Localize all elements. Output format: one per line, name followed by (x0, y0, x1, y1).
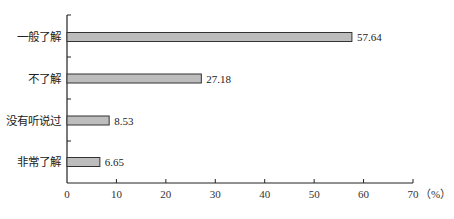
x-tick-label: 0 (64, 188, 70, 200)
value-label: 6.65 (105, 156, 125, 168)
bar-group: 非常了解6.65 (17, 155, 125, 169)
x-tick-label: 70 (408, 188, 420, 200)
bar-group: 没有听说过8.53 (6, 114, 134, 128)
x-tick-label: 50 (309, 188, 321, 200)
bars: 一般了解57.64不了解27.18没有听说过8.53非常了解6.65 (6, 30, 382, 169)
bar-group: 一般了解57.64 (17, 30, 382, 44)
category-label: 非常了解 (17, 155, 62, 169)
value-label: 57.64 (357, 31, 382, 43)
bar (67, 116, 109, 125)
bar (67, 74, 201, 83)
x-axis-unit-label: （%） (420, 188, 451, 200)
axes: 010203040506070（%） (64, 15, 451, 200)
x-tick-label: 10 (111, 188, 123, 200)
horizontal-bar-chart: 010203040506070（%） 一般了解57.64不了解27.18没有听说… (0, 0, 454, 219)
x-tick-label: 30 (210, 188, 222, 200)
x-tick-label: 60 (358, 188, 370, 200)
category-label: 不了解 (28, 72, 62, 86)
bar-group: 不了解27.18 (28, 72, 232, 86)
x-tick-label: 20 (160, 188, 172, 200)
x-tick-label: 40 (259, 188, 271, 200)
value-label: 27.18 (206, 73, 231, 85)
bar (67, 33, 352, 42)
category-label: 一般了解 (17, 30, 62, 44)
category-label: 没有听说过 (6, 114, 62, 128)
x-axis-ticks: 010203040506070（%） (64, 179, 451, 200)
value-label: 8.53 (114, 115, 134, 127)
bar (67, 158, 100, 167)
